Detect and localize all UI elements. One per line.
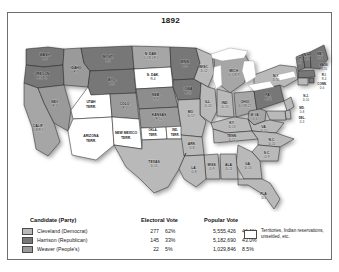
svg-text:D-12: D-12: [229, 138, 236, 142]
svg-text:CONN.: CONN.: [317, 82, 327, 86]
legend-electoral-pct: 33%: [165, 237, 175, 243]
svg-text:P-4: P-4: [123, 106, 128, 110]
svg-text:D-15: D-15: [151, 164, 158, 168]
state-connecticut: [298, 78, 308, 85]
svg-text:D-4: D-4: [262, 196, 267, 200]
svg-text:R-8: R-8: [154, 97, 159, 101]
svg-text:IND.: IND.: [172, 128, 178, 132]
legend-territory-key: Territories, Indian reservations, unsett…: [244, 228, 330, 246]
svg-text:D-36: D-36: [273, 78, 280, 82]
svg-text:D-13: D-13: [245, 166, 252, 170]
legend-popular-pct: 8.5%: [242, 246, 254, 252]
svg-text:D-1/R-22: D-1/R-22: [239, 104, 252, 108]
legend-electoral-pct: 62%: [165, 228, 175, 234]
svg-text:TERR.: TERR.: [121, 136, 131, 140]
svg-text:R-3/P-1: R-3/P-1: [37, 76, 48, 80]
legend-candidate-name: Harrison (Republican): [37, 237, 87, 243]
svg-text:D-8/R-1: D-8/R-1: [33, 128, 44, 132]
us-electoral-map: WASH.R-4 OREGONR-3/P-1 IDAHOP-3 MONT.R-3…: [8, 27, 333, 212]
svg-text:D-6: D-6: [320, 86, 325, 90]
figure-frame: 1892: [7, 12, 332, 260]
svg-text:MASS.: MASS.: [319, 63, 328, 67]
legend-popular-votes: 1,029,846: [200, 246, 236, 252]
legend-electoral-votes: 145: [142, 237, 159, 243]
election-map-figure: 1892: [0, 0, 339, 272]
page-title: 1892: [8, 16, 333, 25]
svg-text:D-8: D-8: [192, 170, 197, 174]
svg-text:NEW MEXICO: NEW MEXICO: [115, 131, 138, 135]
svg-text:D-3: D-3: [300, 120, 305, 124]
svg-text:D-24: D-24: [205, 104, 212, 108]
svg-text:R-6: R-6: [318, 56, 323, 60]
legend-row: Weaver (People's) 22 5% 1,029,846 8.5%: [22, 245, 322, 254]
svg-text:D-5/R-9: D-5/R-9: [229, 73, 240, 77]
legend-electoral-votes: 277: [142, 228, 159, 234]
legend-header-candidate: Candidate (Party): [30, 217, 76, 223]
svg-text:D-6: D-6: [253, 117, 258, 121]
svg-text:R.I.: R.I.: [322, 73, 327, 77]
lake-michigan: [213, 65, 222, 89]
svg-text:TERR.: TERR.: [86, 105, 96, 109]
svg-text:R-3: R-3: [106, 59, 111, 63]
svg-text:N. DAK.: N. DAK.: [145, 52, 158, 56]
svg-text:D-9: D-9: [265, 155, 270, 159]
svg-text:W. VA.: W. VA.: [251, 113, 260, 117]
svg-text:D-9: D-9: [210, 167, 215, 171]
svg-text:D-11: D-11: [269, 142, 276, 146]
svg-text:DEL.: DEL.: [299, 116, 306, 120]
svg-text:D-17: D-17: [188, 114, 195, 118]
svg-text:OKLA.: OKLA.: [149, 128, 158, 132]
legend-electoral-votes: 22: [142, 246, 159, 252]
legend-swatch-democrat: [22, 228, 33, 235]
legend-popular-votes: 5,182,690: [200, 237, 236, 243]
legend-header-electoral-vote: Electoral Vote: [141, 217, 178, 223]
svg-text:P-3: P-3: [74, 70, 79, 74]
state-new-jersey: [284, 97, 294, 111]
legend-territory-label: Territories, Indian reservations, unsett…: [261, 228, 329, 240]
legend-swatch-peoples: [22, 246, 33, 253]
svg-text:R-3: R-3: [110, 82, 115, 86]
svg-text:D-11: D-11: [226, 167, 233, 171]
state-rhode-island: [309, 78, 314, 83]
svg-text:D-10: D-10: [303, 98, 309, 102]
svg-text:TERR.: TERR.: [149, 133, 158, 137]
svg-text:D-1/R-1/P-1: D-1/R-1/P-1: [144, 56, 159, 60]
svg-text:TERR.: TERR.: [171, 133, 180, 137]
legend-electoral-pct: 5%: [165, 246, 173, 252]
state-florida: [238, 179, 280, 209]
svg-text:D-8: D-8: [190, 146, 195, 150]
svg-text:R-15: R-15: [321, 67, 327, 71]
svg-text:R-4: R-4: [305, 57, 310, 61]
state-maryland: [266, 111, 286, 120]
svg-text:R-4: R-4: [322, 77, 327, 81]
svg-text:R-9: R-9: [183, 64, 188, 68]
svg-text:P-10: P-10: [156, 117, 163, 121]
map-canvas: WASH.R-4 OREGONR-3/P-1 IDAHOP-3 MONT.R-3…: [8, 27, 333, 212]
svg-text:R-4: R-4: [151, 77, 156, 81]
legend-swatch-republican: [22, 237, 33, 244]
map-legend: Candidate (Party) Electoral Vote Popular…: [8, 213, 333, 260]
svg-text:R-4: R-4: [297, 61, 302, 65]
legend-popular-votes: 5,555,426: [200, 228, 236, 234]
svg-text:P-3: P-3: [53, 104, 58, 108]
svg-text:D-12: D-12: [261, 129, 268, 133]
svg-text:D-8: D-8: [300, 110, 305, 114]
svg-text:D-12: D-12: [201, 69, 208, 73]
legend-candidate-name: Weaver (People's): [37, 246, 79, 252]
legend-swatch-territory: [244, 230, 257, 239]
svg-text:ARIZONA: ARIZONA: [83, 134, 99, 138]
svg-text:R-13: R-13: [185, 91, 192, 95]
svg-text:D-13: D-13: [229, 125, 236, 129]
legend-candidate-name: Cleveland (Democrat): [37, 228, 87, 234]
state-massachusetts: [298, 70, 315, 78]
svg-text:MD.: MD.: [299, 106, 304, 110]
svg-text:N.J.: N.J.: [303, 94, 308, 98]
svg-text:R-4: R-4: [43, 57, 48, 61]
svg-text:UTAH: UTAH: [86, 100, 96, 104]
svg-text:R-32: R-32: [265, 97, 272, 101]
legend-header-popular-vote: Popular Vote: [204, 217, 238, 223]
svg-text:D-15: D-15: [222, 105, 229, 109]
svg-text:TERR.: TERR.: [86, 139, 96, 143]
